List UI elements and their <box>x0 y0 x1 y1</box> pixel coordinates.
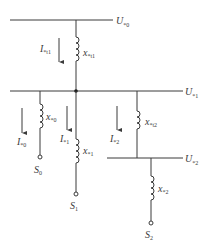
svg-text:I*2: I*2 <box>109 133 119 145</box>
branch-xt1: x*t1 I*t1 <box>39 20 95 91</box>
branch-xt2: x*t2 I*2 <box>109 91 157 158</box>
svg-text:x*t2: x*t2 <box>144 116 157 128</box>
svg-text:x*2: x*2 <box>157 183 168 195</box>
terminal-icon <box>38 155 42 159</box>
bus-u2: U*2 <box>107 153 198 166</box>
bus-u0: U*0 <box>10 15 129 28</box>
inductor-icon <box>76 37 79 61</box>
branch-x2: x*2 S2 <box>145 158 168 241</box>
svg-text:I*t1: I*t1 <box>39 43 51 55</box>
svg-text:x*t1: x*t1 <box>82 47 95 59</box>
branch-x1: x*1 I*1 S1 <box>59 91 93 212</box>
svg-text:I*1: I*1 <box>59 133 69 145</box>
svg-text:S1: S1 <box>70 200 78 212</box>
svg-text:U*0: U*0 <box>116 15 129 28</box>
bus-u1: U*1 <box>10 86 198 99</box>
svg-text:U*2: U*2 <box>185 153 198 166</box>
branch-x0: x*0 I*0 S0 <box>16 91 56 176</box>
svg-text:S2: S2 <box>145 229 153 241</box>
svg-text:x*1: x*1 <box>82 145 93 157</box>
inductor-icon <box>76 139 79 163</box>
svg-text:U*1: U*1 <box>185 86 198 99</box>
terminal-icon <box>74 192 78 196</box>
svg-text:x*0: x*0 <box>45 111 56 123</box>
inductor-icon <box>151 176 154 200</box>
power-network-diagram: U*0 x*t1 I*t1 U*1 x*0 I*0 S0 x*1 I*1 S1 <box>0 0 205 248</box>
terminal-icon <box>149 221 153 225</box>
inductor-icon <box>40 104 43 128</box>
svg-text:I*0: I*0 <box>16 136 26 148</box>
svg-text:S0: S0 <box>34 164 42 176</box>
inductor-icon <box>137 111 140 129</box>
